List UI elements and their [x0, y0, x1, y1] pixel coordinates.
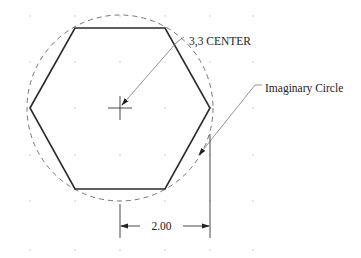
grid-dot: [252, 249, 253, 250]
grid-dot: [209, 249, 210, 250]
grid-dot: [252, 154, 253, 155]
grid-dot: [29, 154, 30, 155]
center-mark-icon[interactable]: [108, 96, 132, 120]
circle-leader[interactable]: [199, 85, 262, 155]
cad-drawing-canvas: 3,3 CENTER Imaginary Circle 2.00: [0, 0, 361, 258]
grid-dot: [74, 200, 75, 201]
dimension-value: 2.00: [151, 220, 171, 232]
center-callout-label: 3,3 CENTER: [189, 35, 251, 48]
grid-dot: [74, 154, 75, 155]
grid-dot: [252, 61, 253, 62]
grid-dot: [119, 154, 120, 155]
grid-dot: [209, 15, 210, 16]
grid-dot: [252, 15, 253, 16]
grid-dot: [164, 249, 165, 250]
grid-dot: [74, 15, 75, 16]
grid-dot: [164, 200, 165, 201]
grid-dot: [119, 249, 120, 250]
grid-dot: [74, 107, 75, 108]
grid-dot: [252, 200, 253, 201]
grid-dot: [74, 249, 75, 250]
grid-dot: [29, 200, 30, 201]
grid-dot: [29, 249, 30, 250]
grid-dot: [119, 61, 120, 62]
grid-dot: [164, 15, 165, 16]
grid-dot: [209, 61, 210, 62]
grid-dot: [164, 61, 165, 62]
circle-callout-label: Imaginary Circle: [265, 82, 343, 95]
center-leader[interactable]: [122, 37, 184, 105]
grid-dot: [74, 61, 75, 62]
grid-dot: [164, 107, 165, 108]
grid-dot: [29, 15, 30, 16]
grid-dot: [119, 15, 120, 16]
grid-dot: [29, 61, 30, 62]
grid-dot: [164, 154, 165, 155]
grid-dot: [252, 107, 253, 108]
